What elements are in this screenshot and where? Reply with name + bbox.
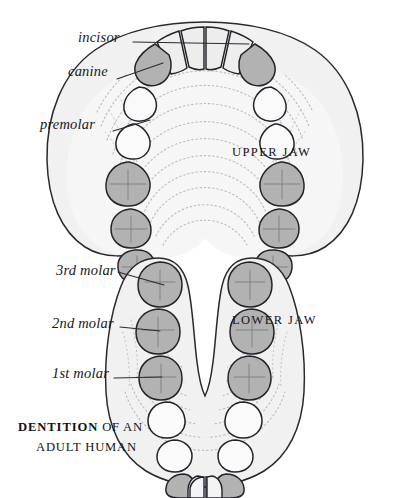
tooth-upper-molar2-left bbox=[111, 209, 151, 248]
tooth-lower-molar1-right bbox=[228, 356, 271, 400]
lower-jaw-title: LOWER JAW bbox=[232, 313, 317, 328]
label-incisor: incisor bbox=[78, 29, 120, 46]
tooth-lower-molar3-left bbox=[138, 262, 182, 307]
upper-jaw-title: UPPER JAW bbox=[232, 145, 311, 160]
label-3rd-molar: 3rd molar bbox=[56, 262, 116, 279]
caption-line-1: DENTITION OF AN bbox=[18, 420, 143, 435]
caption-line-2: ADULT HUMAN bbox=[36, 440, 137, 455]
label-2nd-molar: 2nd molar bbox=[52, 315, 114, 332]
tooth-lower-premolar2-right bbox=[225, 402, 262, 438]
label-1st-molar: 1st molar bbox=[52, 365, 109, 382]
label-canine: canine bbox=[68, 63, 108, 80]
tooth-lower-premolar1-left bbox=[157, 440, 192, 472]
caption-bold-word: DENTITION bbox=[18, 420, 98, 434]
tooth-upper-molar2-right bbox=[259, 209, 299, 248]
dentition-figure: incisor canine premolar 3rd molar 2nd mo… bbox=[0, 0, 411, 498]
label-premolar: premolar bbox=[40, 116, 95, 133]
tooth-lower-molar1-left bbox=[139, 356, 182, 400]
caption-rest: OF AN bbox=[98, 420, 143, 434]
upper-jaw-group bbox=[47, 22, 363, 283]
tooth-lower-premolar2-left bbox=[148, 402, 185, 438]
tooth-lower-molar3-right bbox=[228, 262, 272, 307]
tooth-lower-molar2-left bbox=[136, 309, 180, 354]
tooth-lower-premolar1-right bbox=[218, 440, 253, 472]
